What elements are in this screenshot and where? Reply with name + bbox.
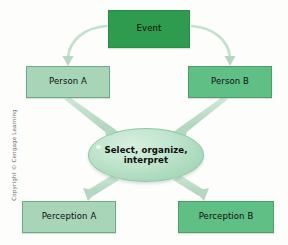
node-perception-b-label: Perception B: [199, 212, 254, 222]
node-perception-b[interactable]: Perception B: [178, 201, 274, 233]
copyright-credit: Copyright © Cengage Learning: [11, 107, 17, 203]
node-person-a[interactable]: Person A: [26, 66, 110, 98]
node-event[interactable]: Event: [108, 10, 190, 48]
arrow-event-to-person-b: [192, 26, 236, 66]
node-person-b[interactable]: Person B: [188, 66, 272, 98]
node-perception-a-label: Perception A: [42, 212, 97, 222]
node-process[interactable]: Select, organize, interpret: [88, 128, 204, 182]
node-process-label: Select, organize, interpret: [96, 145, 196, 166]
ellipse-highlight-dot: [96, 145, 101, 149]
node-person-a-label: Person A: [49, 77, 87, 87]
arrow-process-to-perception-b: [173, 175, 209, 201]
node-perception-a[interactable]: Perception A: [22, 201, 116, 233]
diagram-canvas: Event Person A Person B Select, organize…: [0, 0, 288, 245]
node-event-label: Event: [137, 24, 162, 34]
arrow-event-to-person-a: [63, 26, 107, 66]
node-person-b-label: Person B: [211, 77, 249, 87]
arrow-process-to-perception-a: [83, 175, 119, 201]
